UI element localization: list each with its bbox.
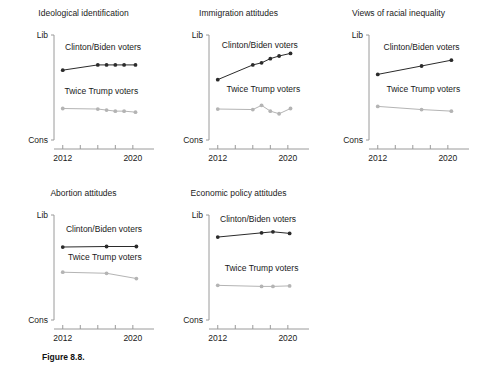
series-dem	[216, 230, 292, 239]
data-point	[134, 245, 138, 249]
data-point	[376, 105, 380, 109]
panel-economic-policy-attitudes: Economic policy attitudesLibCons20122020…	[161, 188, 316, 348]
data-point	[105, 245, 109, 249]
figure-8-8: Ideological identificationLibCons2012202…	[0, 0, 481, 378]
data-point	[420, 64, 424, 68]
data-point	[134, 110, 138, 114]
data-point	[96, 63, 100, 67]
series-dem	[61, 63, 138, 72]
plot-area: LibCons20122020Clinton/Biden votersTwice…	[161, 8, 316, 168]
data-point	[216, 283, 220, 287]
series-annotation-rep: Twice Trump voters	[64, 86, 138, 96]
series-annotation-dem: Clinton/Biden voters	[220, 214, 296, 224]
series-rep	[216, 283, 292, 288]
data-point	[271, 230, 275, 234]
data-point	[260, 285, 264, 289]
data-point	[134, 277, 138, 281]
data-point	[61, 245, 65, 249]
series-annotation-rep: Twice Trump voters	[386, 84, 460, 94]
plot-area: LibCons20122020Clinton/Biden votersTwice…	[6, 8, 161, 168]
series-annotation-dem: Clinton/Biden voters	[384, 42, 460, 52]
data-point	[277, 54, 281, 58]
data-point	[420, 108, 424, 112]
series-dem	[216, 51, 293, 81]
series-annotation-dem: Clinton/Biden voters	[66, 224, 142, 234]
y-axis-top-label: Lib	[352, 30, 364, 40]
data-point	[134, 63, 138, 67]
data-point	[96, 107, 100, 111]
data-point	[61, 107, 65, 111]
data-point	[277, 112, 281, 116]
data-point	[216, 107, 220, 111]
series-rep	[61, 270, 138, 280]
x-tick-label: 2012	[368, 153, 387, 163]
y-axis-bottom-label: Cons	[343, 135, 363, 145]
x-tick-label: 2012	[208, 153, 227, 163]
data-point	[122, 63, 126, 67]
data-point	[113, 109, 117, 113]
data-point	[216, 235, 220, 239]
series-dem	[376, 58, 453, 76]
data-point	[105, 108, 109, 112]
data-point	[260, 61, 264, 65]
data-point	[260, 103, 264, 107]
data-point	[113, 63, 117, 67]
figure-caption: Figure 8.8.	[42, 352, 85, 362]
series-rep	[61, 107, 138, 114]
data-point	[105, 63, 109, 67]
x-tick-label: 2012	[53, 153, 72, 163]
data-point	[289, 107, 293, 111]
data-point	[449, 109, 453, 113]
x-tick-label: 2020	[278, 333, 297, 343]
y-axis-top-label: Lib	[37, 210, 49, 220]
x-tick-label: 2020	[123, 153, 142, 163]
y-axis-bottom-label: Cons	[183, 315, 203, 325]
y-axis-bottom-label: Cons	[183, 135, 203, 145]
data-point	[122, 109, 126, 113]
y-axis-top-label: Lib	[37, 30, 49, 40]
data-point	[260, 231, 264, 235]
y-axis-top-label: Lib	[192, 30, 204, 40]
panel-immigration-attitudes: Immigration attitudesLibCons20122020Clin…	[161, 8, 316, 168]
panel-abortion-attitudes: Abortion attitudesLibCons20122020Clinton…	[6, 188, 161, 348]
series-rep	[376, 105, 453, 114]
y-axis-bottom-label: Cons	[28, 135, 48, 145]
panel-views-of-racial-inequality: Views of racial inequalityLibCons2012202…	[321, 8, 476, 168]
x-tick-label: 2020	[123, 333, 142, 343]
data-point	[376, 72, 380, 76]
series-annotation-dem: Clinton/Biden voters	[222, 40, 298, 50]
series-annotation-rep: Twice Trump voters	[226, 84, 300, 94]
data-point	[251, 63, 255, 67]
y-axis-bottom-label: Cons	[28, 315, 48, 325]
data-point	[61, 68, 65, 72]
plot-area: LibCons20122020Clinton/Biden votersTwice…	[6, 188, 161, 348]
x-tick-label: 2020	[438, 153, 457, 163]
series-rep	[216, 103, 293, 115]
data-point	[288, 231, 292, 235]
data-point	[449, 58, 453, 62]
y-axis-top-label: Lib	[192, 210, 204, 220]
plot-area: LibCons20122020Clinton/Biden votersTwice…	[321, 8, 476, 168]
panel-ideological-identification: Ideological identificationLibCons2012202…	[6, 8, 161, 168]
data-point	[288, 284, 292, 288]
series-dem	[61, 245, 138, 249]
plot-area: LibCons20122020Clinton/Biden votersTwice…	[161, 188, 316, 348]
x-tick-label: 2020	[278, 153, 297, 163]
data-point	[271, 285, 275, 289]
data-point	[251, 108, 255, 112]
series-annotation-rep: Twice Trump voters	[68, 252, 142, 262]
series-annotation-dem: Clinton/Biden voters	[65, 42, 141, 52]
data-point	[268, 109, 272, 113]
x-tick-label: 2012	[208, 333, 227, 343]
data-point	[289, 51, 293, 55]
data-point	[216, 78, 220, 82]
x-tick-label: 2012	[53, 333, 72, 343]
data-point	[105, 271, 109, 275]
data-point	[61, 270, 65, 274]
data-point	[268, 57, 272, 61]
series-annotation-rep: Twice Trump voters	[225, 263, 299, 273]
